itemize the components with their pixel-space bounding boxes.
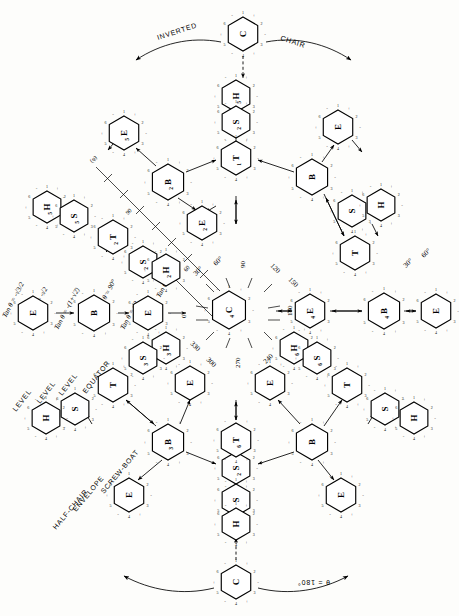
ring-vertex-sign: + — [365, 232, 368, 237]
ring-vertex-number: 1 — [165, 325, 167, 330]
conformer-chair-center[interactable]: C41+2-3+4-5+6- — [204, 284, 255, 336]
ring-vertex-sign: - — [370, 221, 372, 226]
ring-vertex-sign: + — [390, 221, 393, 226]
ring-vertex-sign: + — [280, 400, 283, 405]
conformer-envelope-far-right[interactable]: E1+2-3+4-5+6- — [413, 287, 459, 335]
ring-vertex-sign: + — [200, 400, 203, 405]
conformer-twist-upper-right[interactable]: T1+2-3+4-5+6- — [332, 229, 379, 277]
conformer-letter: B — [379, 308, 389, 314]
ring-vertex-sign: - — [116, 311, 118, 316]
ring-vertex-number: 5 — [217, 532, 219, 537]
conformer-subscript: 2 — [237, 127, 243, 130]
conformer-boat-lower-left[interactable]: B31+2-3+4-5+6- — [144, 417, 193, 467]
ring-vertex-sign: - — [306, 374, 308, 379]
ring-vertex-number: 5 — [335, 261, 337, 266]
ring-vertex-number: 5 — [275, 356, 277, 361]
ring-vertex-number: 3 — [63, 426, 65, 431]
ring-vertex-sign: + — [357, 402, 360, 407]
ring-vertex-sign: - — [374, 425, 376, 430]
ring-vertex-sign: - — [156, 200, 158, 205]
ring-vertex-number: 6 — [327, 372, 329, 377]
conformer-twist-lower-left[interactable]: T1+2-3+4-5+6- — [90, 361, 137, 409]
ring-vertex-sign: - — [216, 328, 218, 333]
ring-vertex-number: 5 — [28, 215, 30, 220]
ring-vertex-sign: + — [394, 289, 397, 294]
ring-vertex-sign: - — [155, 327, 157, 332]
conformer-subscript: 3 — [169, 447, 175, 450]
ring-vertex-number: 1 — [235, 501, 237, 506]
conformer-letter: H — [231, 520, 241, 527]
ring-vertex-number: 4 — [316, 376, 318, 381]
conformer-boat-lower-right[interactable]: B1+2-3+4-5+6- — [288, 417, 337, 467]
conformer-envelope-lower-left[interactable]: E1+2-3+4-5+6- — [167, 359, 214, 407]
ring-vertex-sign: + — [123, 402, 126, 407]
ring-vertex-number: 4 — [340, 514, 342, 519]
ring-vertex-number: 1 — [337, 103, 339, 108]
ring-vertex-number: 1 — [435, 287, 437, 292]
ring-vertex-number: 6 — [93, 372, 95, 377]
ring-vertex-number: 6 — [333, 198, 335, 203]
conformer-letter: T — [342, 382, 352, 388]
ring-vertex-sign: - — [372, 289, 374, 294]
ring-vertex-sign: - — [335, 402, 337, 407]
ring-vertex-number: 2 — [334, 345, 336, 350]
ring-vertex-number: 5 — [217, 104, 219, 109]
conformer-boat-upper-right[interactable]: B1+2-3+4-5+6- — [288, 152, 337, 202]
conformer-letter: E — [143, 310, 153, 316]
conformer-envelope-e2[interactable]: E21+2-3+4-5+6- — [179, 199, 226, 247]
conformer-twist-lower-right[interactable]: T1+2-3+4-5+6- — [324, 361, 371, 409]
ring-vertex-sign: + — [303, 327, 306, 332]
ring-vertex-number: 4 — [309, 330, 311, 335]
ring-vertex-sign: - — [252, 308, 254, 313]
ring-vertex-number: 1 — [73, 193, 75, 198]
ring-vertex-number: 5 — [250, 391, 252, 396]
ring-vertex-number: 4 — [413, 436, 415, 441]
ring-vertex-number: 2 — [186, 428, 188, 433]
ring-vertex-sign: + — [390, 184, 393, 189]
conformer-envelope-bottom-right[interactable]: E1+2-3+4-5+6- — [318, 471, 365, 519]
ring-vertex-sign: - — [36, 223, 38, 228]
ring-vertex-number: 1 — [413, 395, 415, 400]
conformer-envelope-upper-right[interactable]: E1+2-3+4-5+6- — [315, 103, 362, 151]
ring-vertex-number: 4 — [242, 53, 244, 58]
label-envelope: ENVELOPE — [71, 474, 105, 512]
ring-vertex-sign: - — [343, 232, 345, 237]
ring-vertex-sign: - — [424, 290, 426, 295]
ring-vertex-sign: + — [178, 420, 181, 425]
conformer-boat-b2[interactable]: B21+2-3+4-5+6- — [144, 157, 193, 207]
ring-vertex-sign: - — [326, 144, 328, 149]
ring-vertex-sign: + — [322, 195, 325, 200]
ring-vertex-number: 2 — [253, 511, 255, 516]
ring-vertex-sign: + — [152, 374, 155, 379]
ring-vertex-sign: - — [256, 466, 258, 471]
ring-vertex-number: 6 — [321, 482, 323, 487]
angle-330: 330 — [189, 340, 202, 353]
ring-vertex-sign: - — [224, 599, 226, 604]
ring-vertex-number: 3 — [186, 191, 188, 196]
ring-vertex-sign: + — [245, 540, 248, 545]
ring-vertex-sign: - — [434, 416, 436, 421]
conformer-envelope-e5[interactable]: E51+2-3+4-5+6- — [101, 109, 148, 157]
ring-vertex-sign: - — [82, 291, 84, 296]
ring-vertex-number: 2 — [248, 296, 250, 301]
conformer-boat-right[interactable]: B41+2-3+4-5+6- — [360, 286, 409, 336]
conformer-twist-t1[interactable]: T11+2-3+4-5+6- — [213, 134, 260, 182]
ring-vertex-sign: + — [324, 383, 327, 388]
ring-vertex-sign: + — [245, 101, 248, 106]
conformer-letter: B — [163, 179, 173, 185]
ring-vertex-sign: + — [214, 466, 217, 471]
ring-vertex-number: 4 — [354, 272, 356, 277]
ring-vertex-sign: - — [190, 440, 192, 445]
conformer-chair-bottom[interactable]: C1+2-3+4-5+6- — [213, 558, 260, 606]
conformer-subscript: 4 — [385, 316, 391, 319]
conformer-letter: H — [409, 414, 419, 421]
ring-vertex-sign: + — [240, 287, 243, 292]
conformer-envelope-lower-right[interactable]: E1+2-3+4-5+6- — [247, 359, 294, 407]
conformer-half-chair-bottom[interactable]: H1+2-3+4-5+6- — [214, 501, 259, 547]
ring-vertex-sign: - — [403, 397, 405, 402]
ring-vertex-number: 3 — [398, 213, 400, 218]
conformer-chair-top[interactable]: C1+2-3+4-5+6- — [220, 10, 267, 58]
ring-vertex-sign: - — [224, 561, 226, 566]
ring-vertex-sign: + — [246, 457, 249, 462]
ring-vertex-number: 4 — [235, 177, 237, 182]
